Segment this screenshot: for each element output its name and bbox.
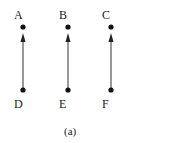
node-a-label: A bbox=[14, 9, 23, 21]
node-f-label: F bbox=[102, 98, 109, 110]
node-b-dot bbox=[65, 24, 70, 29]
node-b-label: B bbox=[59, 9, 67, 21]
node-d-dot bbox=[20, 87, 25, 92]
node-e-label: E bbox=[59, 98, 66, 110]
node-c-label: C bbox=[102, 9, 110, 21]
node-d-label: D bbox=[14, 98, 23, 110]
node-e-dot bbox=[65, 87, 70, 92]
edge-d-a bbox=[21, 33, 26, 88]
edge-f-c bbox=[109, 33, 114, 88]
node-c-dot bbox=[108, 24, 113, 29]
diagram-canvas bbox=[0, 0, 183, 143]
edge-e-b bbox=[66, 33, 71, 88]
figure-caption: (a) bbox=[64, 125, 76, 137]
node-a-dot bbox=[20, 24, 25, 29]
node-f-dot bbox=[108, 87, 113, 92]
